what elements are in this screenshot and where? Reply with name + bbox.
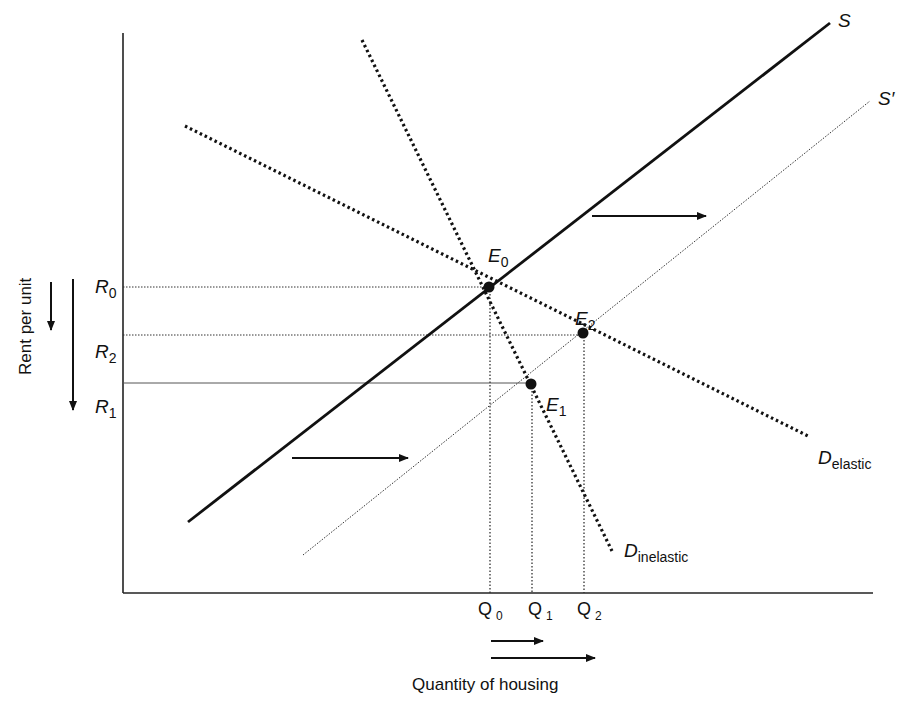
quantity-label-q0: Q0: [478, 599, 503, 623]
equilibrium-e1-dot: [526, 379, 537, 390]
q0-sub: 0: [496, 609, 503, 623]
equilibrium-e2-label: E2: [575, 308, 595, 333]
y-axis-title: Rent per unit: [16, 278, 36, 375]
r0-main: R: [95, 276, 109, 297]
e0-sub: 0: [501, 254, 509, 270]
supply-demand-diagram: [0, 0, 909, 710]
r1-sub: 1: [109, 405, 117, 421]
supply-label: S: [838, 10, 851, 32]
e1-main: E: [546, 394, 559, 415]
r0-sub: 0: [109, 285, 117, 301]
e0-main: E: [488, 245, 501, 266]
demand-elastic-label-main: D: [818, 447, 832, 468]
supply-curve: [188, 23, 830, 522]
demand-inelastic-curve: [362, 40, 612, 551]
q1-sub: 1: [546, 609, 553, 623]
rent-label-r0: R0: [95, 276, 117, 301]
e2-sub: 2: [588, 317, 596, 333]
rent-label-r1: R1: [95, 396, 117, 421]
q2-sub: 2: [595, 609, 602, 623]
rent-label-r2: R2: [95, 341, 117, 366]
quantity-label-q1: Q1: [528, 599, 553, 623]
demand-inelastic-label-sub: inelastic: [638, 549, 689, 565]
equilibrium-e1-label: E1: [546, 394, 566, 419]
supply-shifted-label: S′: [878, 88, 894, 110]
r1-main: R: [95, 396, 109, 417]
q2-main: Q: [577, 599, 591, 619]
e1-sub: 1: [559, 403, 567, 419]
demand-inelastic-label-main: D: [624, 540, 638, 561]
e2-main: E: [575, 308, 588, 329]
demand-elastic-label: Delastic: [818, 447, 871, 472]
q1-main: Q: [528, 599, 542, 619]
demand-inelastic-label: Dinelastic: [624, 540, 688, 565]
equilibrium-e0-dot: [484, 282, 495, 293]
equilibrium-e0-label: E0: [488, 245, 508, 270]
r2-sub: 2: [109, 350, 117, 366]
r2-main: R: [95, 341, 109, 362]
x-axis-title: Quantity of housing: [412, 675, 558, 695]
demand-elastic-label-sub: elastic: [832, 456, 872, 472]
quantity-label-q2: Q2: [577, 599, 602, 623]
q0-main: Q: [478, 599, 492, 619]
